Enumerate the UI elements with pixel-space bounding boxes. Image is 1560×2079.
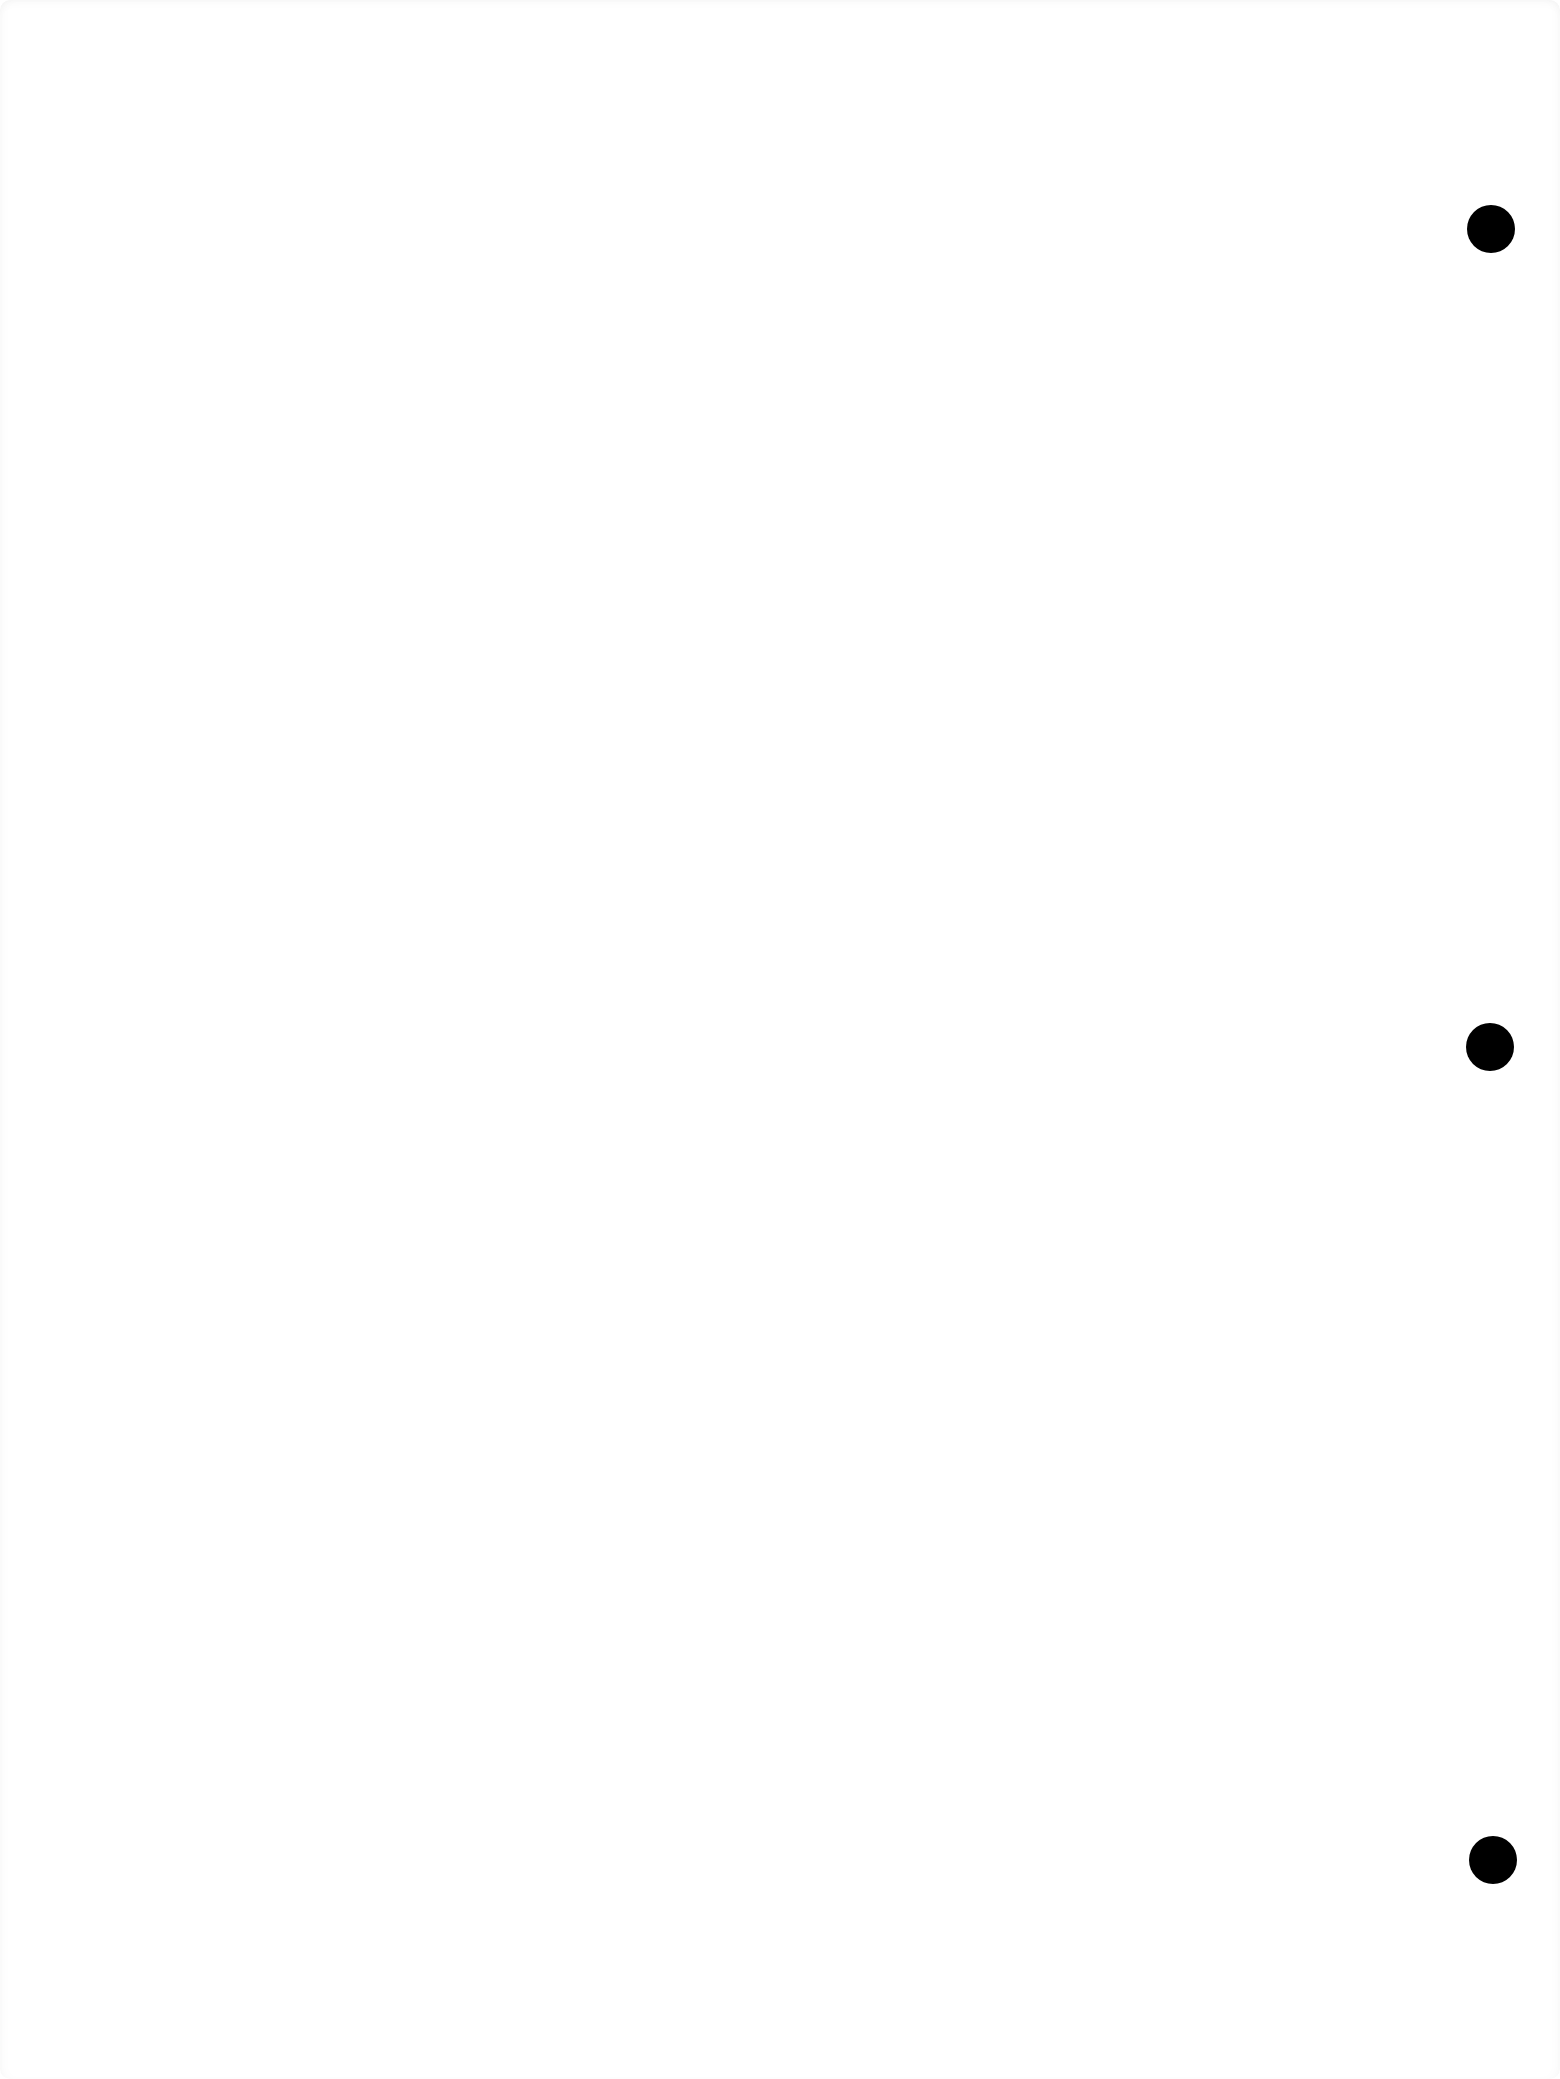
punch-hole-middle (1466, 1023, 1514, 1071)
punch-hole-bottom (1469, 1836, 1517, 1884)
blank-paper-sheet (0, 0, 1560, 2079)
punch-hole-top (1467, 205, 1515, 253)
